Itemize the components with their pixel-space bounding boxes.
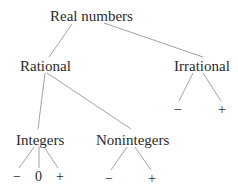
- node-irrational: Irrational: [174, 58, 230, 74]
- leaf-irrational-positive: +: [218, 103, 226, 117]
- leaf-nonintegers-negative: −: [105, 172, 113, 186]
- tree-edges: [0, 0, 238, 189]
- node-rational: Rational: [20, 58, 71, 74]
- node-integers: Integers: [16, 132, 64, 148]
- leaf-integers-positive: +: [56, 170, 64, 184]
- leaf-irrational-negative: −: [174, 103, 182, 117]
- node-real-numbers: Real numbers: [50, 8, 133, 24]
- leaf-integers-negative: −: [13, 170, 21, 184]
- leaf-integers-zero: 0: [35, 170, 42, 184]
- node-nonintegers: Nonintegers: [96, 132, 169, 148]
- leaf-nonintegers-positive: +: [148, 172, 156, 186]
